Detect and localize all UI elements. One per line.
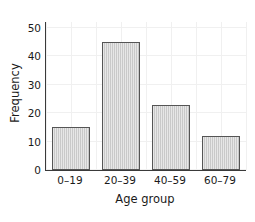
x-axis-label: Age group [45, 192, 245, 206]
y-axis-ticks: 01020304050 [13, 22, 41, 170]
bar [52, 127, 90, 170]
bar [102, 42, 140, 170]
gridline-horizontal [46, 27, 246, 28]
y-tick-label: 20 [17, 107, 41, 119]
gridline-horizontal [46, 112, 246, 113]
x-tick-label: 60–79 [204, 174, 236, 186]
y-tick-label: 30 [17, 79, 41, 91]
bar-chart: Frequency 01020304050 0–1920–3940–5960–7… [0, 0, 255, 222]
x-tick-label: 20–39 [104, 174, 136, 186]
x-axis-ticks: 0–1920–3940–5960–79 [45, 174, 245, 190]
bar [152, 105, 190, 170]
y-tick-label: 50 [17, 22, 41, 34]
y-tick-label: 0 [17, 164, 41, 176]
bar [202, 136, 240, 170]
gridline-horizontal [46, 55, 246, 56]
gridline-vertical [246, 22, 247, 170]
x-tick-label: 0–19 [57, 174, 82, 186]
x-tick-label: 40–59 [154, 174, 186, 186]
gridline-vertical [146, 22, 147, 170]
gridline-vertical [196, 22, 197, 170]
y-tick-label: 40 [17, 50, 41, 62]
gridline-vertical [46, 22, 47, 170]
plot-area [45, 22, 246, 171]
gridline-horizontal [46, 84, 246, 85]
gridline-vertical [96, 22, 97, 170]
y-tick-label: 10 [17, 136, 41, 148]
